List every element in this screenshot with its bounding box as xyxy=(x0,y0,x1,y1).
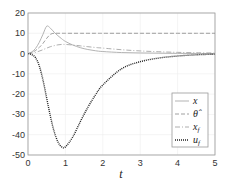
y-tick-label: -30 xyxy=(12,109,25,119)
x-tick-label: 3 xyxy=(138,158,143,168)
line-chart: 01234520100-10-20-30-40-50 t xθ̂xfuf xyxy=(0,0,226,188)
y-tick-label: 20 xyxy=(15,8,25,18)
x-tick-label: 2 xyxy=(100,158,105,168)
x-tick-label: 5 xyxy=(212,158,217,168)
y-tick-label: -10 xyxy=(12,69,25,79)
y-tick-label: -20 xyxy=(12,89,25,99)
x-tick-label: 4 xyxy=(175,158,180,168)
series--line xyxy=(28,33,215,53)
y-tick-label: 0 xyxy=(20,49,25,59)
x-axis-label: t xyxy=(119,167,123,181)
y-tick-label: 10 xyxy=(15,28,25,38)
series-x-line xyxy=(28,26,215,54)
y-tick-label: -40 xyxy=(12,130,25,140)
legend-label: x xyxy=(192,95,198,106)
x-tick-label: 1 xyxy=(63,158,68,168)
legend: xθ̂xfuf xyxy=(172,93,208,147)
y-tick-label: -50 xyxy=(12,150,25,160)
x-tick-label: 0 xyxy=(25,158,30,168)
